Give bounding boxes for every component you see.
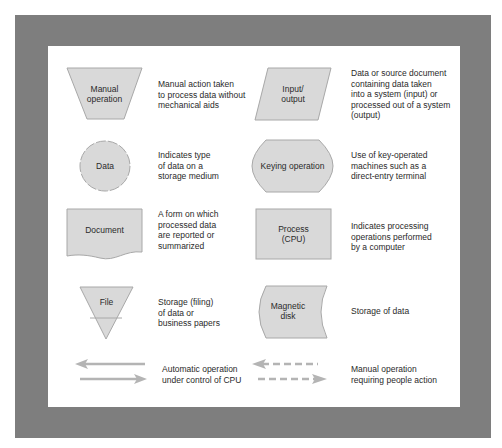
automatic-operation-description: Automatic operation under control of CPU [162,364,241,385]
document-description: A form on which processed data are repor… [158,209,218,251]
file-description: Storage (filing) of data or business pap… [158,297,220,329]
manual-operation-description: Manual action taken to process data with… [158,79,245,111]
process-description: Indicates processing operations performe… [351,221,432,253]
process-label: Process (CPU) [256,224,331,244]
manual-operation-arrows-description: Manual operation requiring people action [351,364,437,385]
magnetic-disk-label: Magnetic disk [256,301,320,321]
data-description: Indicates type of data on a storage medi… [158,150,219,182]
keying-operation-description: Use of key-operated machines such as a d… [351,150,428,182]
file-shape [80,287,133,339]
data-label: Data [80,161,130,171]
input-output-label: Input/ output [255,84,331,104]
keying-operation-label: Keying operation [252,161,333,171]
magnetic-disk-description: Storage of data [351,306,409,317]
file-label: File [80,297,133,307]
manual-operation-arrows [252,359,327,384]
automatic-operation-arrows [75,359,147,384]
document-label: Document [67,225,142,235]
input-output-description: Data or source document containing data … [351,68,450,121]
manual-operation-label: Manual operation [67,84,142,104]
